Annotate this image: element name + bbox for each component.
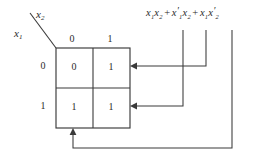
expression-term-2: x′1x2 [172,7,191,18]
row-variable-label: x1 [14,28,22,39]
row-header-1: 1 [35,101,51,111]
boolean-expression: x1x2+x′1x2+x1x′2 [146,7,219,18]
pointer-arrowhead-term-3 [70,128,77,135]
pointer-line-term-1 [134,30,206,66]
kmap-cell-row1-col1: 1 [103,101,119,112]
diagram-vector-layer [0,0,258,163]
kmap-cell-row0-col1: 1 [103,61,119,72]
pointer-arrowhead-term-2 [130,103,137,110]
row-variable-subscript: 1 [19,33,23,41]
pointer-line-term-2 [134,30,183,106]
kmap-cell-row0-col0: 0 [66,61,82,72]
expression-operator-2: + [191,7,200,18]
row-header-0: 0 [35,61,51,71]
kmap-cell-row1-col0: 1 [66,101,82,112]
column-header-0: 0 [64,34,80,44]
column-variable-label: x2 [36,9,44,20]
pointer-arrowhead-term-1 [130,63,137,70]
expression-operator-1: + [163,7,172,18]
column-header-1: 1 [102,34,118,44]
column-variable-subscript: 2 [41,14,45,22]
karnaugh-map-figure: x2 x1 0 1 0 1 0 1 1 1 x1x2+x′1x2+x1x′2 [0,0,258,163]
expression-term-3: x1x′2 [200,7,219,18]
expression-term-1: x1x2 [146,7,163,18]
